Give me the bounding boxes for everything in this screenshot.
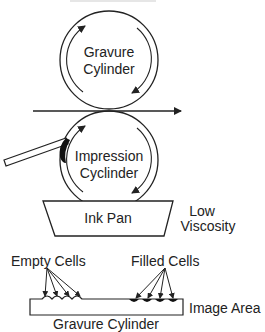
viscosity-label-line2: Viscosity: [181, 218, 236, 234]
empty-cells-label: Empty Cells: [11, 253, 86, 269]
cylinder-detail: [30, 268, 183, 315]
impression-cylinder-label-line2: Cyclinder: [80, 165, 138, 181]
empty-cells-arrows: [45, 268, 80, 296]
impression-cylinder-label-line1: Impression: [75, 148, 143, 164]
gravure-cylinder-label-line1: Gravure: [84, 44, 135, 60]
filled-cells-arrows: [136, 268, 173, 298]
viscosity-label-line1: Low: [189, 203, 215, 219]
title-cutoff: [70, 0, 156, 2]
rotation-arrow-left-icon: [67, 26, 85, 92]
gravure-printing-diagram: Gravure Cylinder Impression Cyclinder In…: [0, 0, 265, 332]
gravure-cylinder: [60, 11, 158, 109]
rotation-arrow-right-icon: [132, 28, 151, 93]
gravure-cylinder-label-line2: Cylinder: [83, 61, 134, 77]
image-area-label: Image Area: [189, 300, 261, 316]
ink-pan-label: Ink Pan: [84, 210, 131, 226]
filled-cells-label: Filled Cells: [131, 253, 199, 269]
gravure-cylinder-detail-label: Gravure Cylinder: [53, 316, 159, 332]
